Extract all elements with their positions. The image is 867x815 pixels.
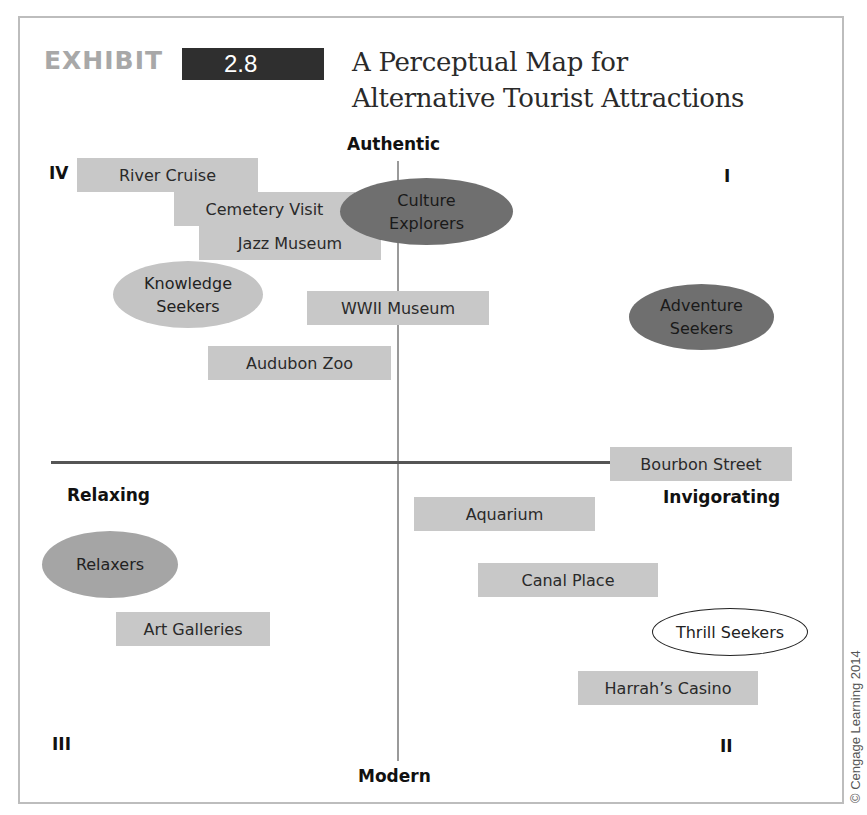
segment-label-line-1: Culture: [389, 189, 464, 212]
segment-label: Relaxers: [76, 553, 144, 576]
segment-label: Thrill Seekers: [676, 621, 784, 644]
exhibit-label: EXHIBIT: [44, 46, 163, 76]
segment-label-line-2: Seekers: [144, 295, 232, 318]
axis-label-modern: Modern: [358, 766, 431, 786]
title-line-2: Alternative Tourist Attractions: [352, 80, 744, 116]
attraction-art-galleries: Art Galleries: [116, 612, 270, 646]
exhibit-number-badge: 2.8: [182, 48, 324, 80]
copyright-credit: © Cengage Learning 2014: [848, 650, 863, 803]
axis-label-invigorating: Invigorating: [663, 487, 780, 507]
segment-thrill-seekers: Thrill Seekers: [652, 608, 808, 656]
attraction-aquarium: Aquarium: [414, 497, 595, 531]
axis-label-authentic: Authentic: [347, 134, 440, 154]
segment-relaxers: Relaxers: [42, 531, 178, 598]
axis-label-relaxing: Relaxing: [67, 485, 150, 505]
attraction-bourbon-street: Bourbon Street: [610, 447, 792, 481]
segment-label-line-2: Seekers: [660, 317, 743, 340]
segment-culture-explorers: Culture Explorers: [340, 178, 513, 245]
quadrant-label-iv: IV: [49, 163, 68, 183]
quadrant-label-iii: III: [52, 734, 71, 754]
segment-adventure-seekers: Adventure Seekers: [629, 284, 774, 350]
quadrant-label-ii: II: [720, 736, 733, 756]
segment-label-line-2: Explorers: [389, 212, 464, 235]
attraction-audubon-zoo: Audubon Zoo: [208, 346, 391, 380]
exhibit-title: A Perceptual Map for Alternative Tourist…: [352, 44, 744, 116]
attraction-river-cruise: River Cruise: [77, 158, 258, 192]
horizontal-axis: [51, 461, 611, 464]
title-line-1: A Perceptual Map for: [352, 44, 744, 80]
segment-label-line-1: Adventure: [660, 294, 743, 317]
segment-label-line-1: Knowledge: [144, 272, 232, 295]
attraction-jazz-museum: Jazz Museum: [199, 226, 381, 260]
attraction-canal-place: Canal Place: [478, 563, 658, 597]
attraction-harrahs-casino: Harrah’s Casino: [578, 671, 758, 705]
segment-knowledge-seekers: Knowledge Seekers: [113, 261, 263, 328]
attraction-cemetery-visit: Cemetery Visit: [174, 192, 355, 226]
quadrant-label-i: I: [724, 166, 730, 186]
attraction-wwii-museum: WWII Museum: [307, 291, 489, 325]
